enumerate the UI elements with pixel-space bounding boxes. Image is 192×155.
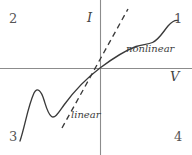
linear-curve-label: linear <box>71 110 101 120</box>
quadrant-label-2: 2 <box>9 12 17 25</box>
plot-canvas <box>0 0 192 155</box>
iv-characteristic-figure: 1 2 3 4 I V nonlinear linear <box>0 0 192 155</box>
quadrant-label-1: 1 <box>174 12 182 25</box>
x-axis-label: V <box>170 70 179 83</box>
quadrant-label-4: 4 <box>174 130 182 143</box>
quadrant-label-3: 3 <box>9 130 17 143</box>
nonlinear-curve <box>20 20 178 141</box>
nonlinear-curve-label: nonlinear <box>126 44 174 54</box>
y-axis-label: I <box>87 11 92 24</box>
